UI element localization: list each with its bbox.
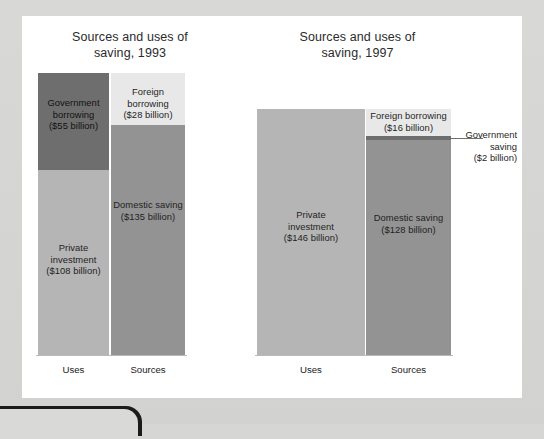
foreign-borrowing-1997-l1: Foreign borrowing [368, 110, 449, 122]
domestic-saving-1993-l2: ($135 billion) [113, 211, 183, 223]
private-investment-1997-l1: Private [259, 209, 363, 221]
segment-government-borrowing-1993[interactable]: Government borrowing ($55 billion) [38, 73, 109, 170]
private-investment-1997-l3: ($146 billion) [259, 232, 363, 244]
callout-government-saving-1997: Government saving ($2 billion) [452, 129, 517, 164]
chart-saving-1993: Sources and uses of saving, 1993 Governm… [30, 26, 230, 366]
segment-domestic-saving-1997[interactable]: Domestic saving ($128 billion) [366, 140, 451, 355]
government-saving-1997-l3: ($2 billion) [452, 152, 517, 164]
gov-borrowing-1993-l2: borrowing [40, 109, 107, 121]
plot-area-1993: Government borrowing ($55 billion) Priva… [30, 26, 230, 366]
government-saving-1997-l1: Government [452, 129, 517, 141]
caption-tab-fill [0, 409, 138, 439]
segment-foreign-borrowing-1993[interactable]: Foreign borrowing ($28 billion) [111, 73, 185, 125]
domestic-saving-1993-l1: Domestic saving [113, 199, 183, 211]
segment-private-investment-1993-label: Private investment ($108 billion) [38, 242, 109, 277]
chart-saving-1997: Sources and uses of saving, 1997 Private… [255, 26, 517, 366]
segment-private-investment-1997[interactable]: Private investment ($146 billion) [257, 109, 365, 355]
private-investment-1993-l2: investment [40, 254, 107, 266]
axis-baseline-1997 [255, 355, 453, 356]
segment-foreign-borrowing-1997-label: Foreign borrowing ($16 billion) [366, 110, 451, 133]
foreign-borrowing-1993-l1: Foreign borrowing [113, 86, 183, 109]
domestic-saving-1997-l2: ($128 billion) [368, 224, 449, 236]
foreign-borrowing-1997-l2: ($16 billion) [368, 122, 449, 134]
axis-category-sources-1993: Sources [111, 364, 185, 375]
axis-baseline-1993 [36, 355, 187, 356]
segment-domestic-saving-1997-label: Domestic saving ($128 billion) [366, 212, 451, 235]
plot-area-1997: Private investment ($146 billion) Foreig… [255, 26, 517, 366]
private-investment-1997-l2: investment [259, 221, 363, 233]
axis-category-sources-1997: Sources [366, 364, 451, 375]
segment-foreign-borrowing-1997[interactable]: Foreign borrowing ($16 billion) [366, 109, 451, 136]
government-saving-1997-l2: saving [452, 141, 517, 153]
segment-domestic-saving-1993-label: Domestic saving ($135 billion) [111, 199, 185, 222]
domestic-saving-1997-l1: Domestic saving [368, 212, 449, 224]
segment-private-investment-1997-label: Private investment ($146 billion) [257, 209, 365, 244]
private-investment-1993-l1: Private [40, 242, 107, 254]
gov-borrowing-1993-l1: Government [40, 97, 107, 109]
private-investment-1993-l3: ($108 billion) [40, 265, 107, 277]
segment-domestic-saving-1993[interactable]: Domestic saving ($135 billion) [111, 125, 185, 355]
axis-category-uses-1997: Uses [257, 364, 365, 375]
segment-foreign-borrowing-1993-label: Foreign borrowing ($28 billion) [111, 86, 185, 121]
gov-borrowing-1993-l3: ($55 billion) [40, 120, 107, 132]
segment-private-investment-1993[interactable]: Private investment ($108 billion) [38, 170, 109, 355]
segment-government-borrowing-1993-label: Government borrowing ($55 billion) [38, 97, 109, 132]
foreign-borrowing-1993-l2: ($28 billion) [113, 109, 183, 121]
axis-category-uses-1993: Uses [38, 364, 109, 375]
